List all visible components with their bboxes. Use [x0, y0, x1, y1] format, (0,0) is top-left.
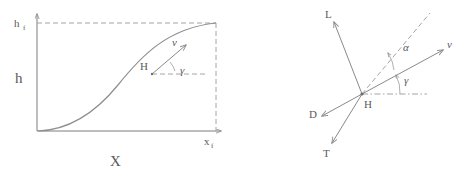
thrust-vector	[332, 94, 362, 143]
figure-canvas: h f h X x f H v γ L D T v	[0, 0, 465, 176]
final-range-label-sub: f	[211, 142, 214, 150]
gamma-arc-left	[170, 62, 175, 71]
figure-svg: h f h X x f H v γ L D T v	[0, 0, 465, 176]
velocity-label-left: v	[172, 36, 177, 48]
point-h-label-right: H	[364, 98, 372, 110]
gamma-label-right: γ	[404, 74, 409, 86]
trajectory-curve	[38, 23, 216, 131]
point-h-marker-right	[360, 92, 363, 95]
drag-vector	[322, 94, 362, 116]
x-axis-label: X	[110, 153, 121, 169]
final-altitude-label: h	[14, 17, 20, 29]
drag-label: D	[309, 108, 317, 120]
point-h-label-left: H	[140, 60, 148, 72]
thrust-label: T	[323, 147, 330, 159]
gamma-label-left: γ	[180, 64, 185, 76]
velocity-vector-right	[362, 50, 443, 94]
point-h-marker-left	[151, 73, 153, 75]
lift-label: L	[325, 8, 332, 20]
final-altitude-label-sub: f	[23, 24, 26, 32]
final-range-label: x	[204, 135, 210, 147]
left-panel-group: h f h X x f H v γ	[14, 14, 221, 169]
gamma-arc-right	[396, 75, 400, 94]
y-axis-label: h	[15, 70, 23, 86]
lift-vector	[334, 22, 362, 94]
alpha-label: α	[403, 41, 409, 53]
body-axis-dashed-line	[362, 13, 430, 94]
velocity-label-right: v	[447, 38, 452, 50]
right-panel-group: L D T v H α γ	[309, 8, 452, 159]
